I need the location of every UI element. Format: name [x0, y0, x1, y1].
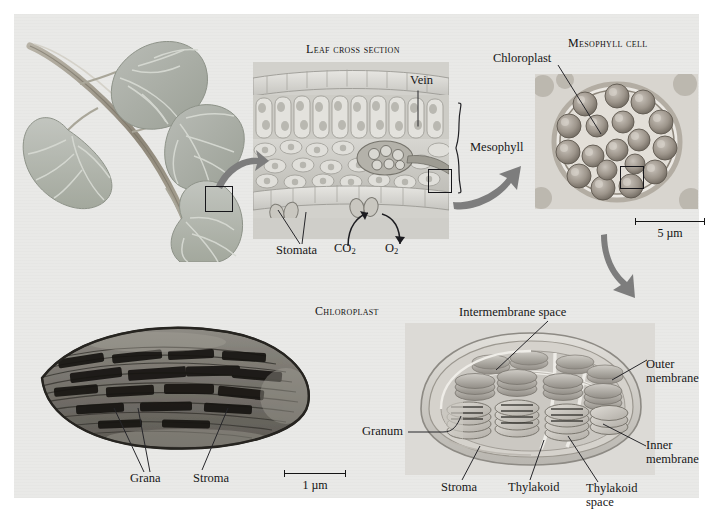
thylakoid-space-text: Thylakoid space: [586, 481, 637, 509]
inner-membrane-text: Inner membrane: [646, 438, 699, 466]
leaf-inset-box: [205, 186, 233, 212]
outer-membrane-text: Outer membrane: [646, 357, 699, 385]
stomata-leader-lines: [276, 206, 338, 246]
outer-membrane-leader-line: [611, 358, 649, 382]
tem-stroma-label: Stroma: [193, 472, 229, 486]
scale-bar-line: [284, 470, 346, 477]
o2-text: O: [385, 241, 394, 255]
tem-scale-bar: 1 µm: [284, 470, 346, 493]
thylakoid-label: Thylakoid: [508, 481, 559, 495]
thylakoid-leader-line: [514, 438, 554, 482]
cross-section-inset-box: [428, 169, 452, 193]
figure-panel: Leaf cross section: [14, 14, 699, 498]
intermembrane-space-leader-line: [494, 320, 550, 372]
chloroplast-label: Chloroplast: [493, 52, 551, 66]
scale-bar-text: 1 µm: [284, 478, 346, 493]
vein-label: Vein: [410, 74, 433, 88]
diagram-stroma-leader-line: [444, 444, 484, 482]
tem-leader-lines: [110, 406, 240, 478]
vein-leader-line: [418, 91, 419, 127]
chloroplast-leader-line: [557, 64, 603, 136]
granum-label: Granum: [362, 425, 403, 439]
outer-membrane-label: Outer membrane: [646, 357, 708, 385]
chloroplast-diagram-title: Chloroplast: [315, 304, 379, 319]
intermembrane-space-label: Intermembrane space: [459, 306, 566, 320]
mesophyll-scale-bar: 5 µm: [635, 218, 705, 241]
mesophyll-cell-title: Mesophyll cell: [568, 36, 647, 51]
thylakoid-space-leader-line: [566, 434, 600, 484]
stomata-label: Stomata: [276, 244, 317, 258]
inner-membrane-leader-line: [602, 422, 648, 448]
o2-label: O2: [385, 242, 398, 256]
co2-subscript: 2: [351, 246, 355, 256]
inner-membrane-label: Inner membrane: [646, 438, 708, 466]
co2-text: CO: [334, 241, 351, 255]
tem-grana-label: Grana: [130, 472, 161, 486]
arrow-mesophyll-cell-to-chloroplast: [601, 232, 643, 300]
thylakoid-space-label: Thylakoid space: [586, 481, 646, 509]
scale-bar-line: [635, 218, 705, 225]
co2-label: CO2: [334, 242, 356, 256]
granum-leader-line: [407, 414, 463, 436]
diagram-stroma-label: Stroma: [441, 481, 477, 495]
o2-subscript: 2: [394, 246, 398, 256]
scale-bar-text: 5 µm: [635, 226, 705, 241]
mesophyll-label: Mesophyll: [470, 141, 523, 155]
mesophyll-brace: [455, 102, 469, 194]
leaf-cross-section-title: Leaf cross section: [306, 42, 400, 57]
mesophyll-cell-inset-box: [620, 166, 644, 189]
